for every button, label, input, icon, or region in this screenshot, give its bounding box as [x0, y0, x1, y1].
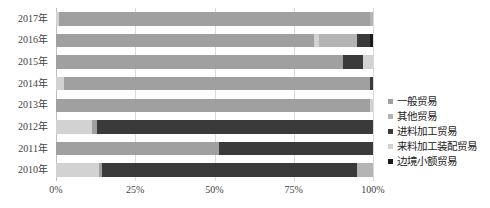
bar-segment[interactable] [370, 99, 373, 112]
x-axis-labels: 0%25%50%75%100% [56, 184, 373, 200]
y-axis-tick-label: 2014年 [18, 78, 48, 90]
legend-item[interactable]: 进料加工贸易 [388, 124, 488, 139]
legend-item[interactable]: 来料加工装配贸易 [388, 139, 488, 154]
bar-row [56, 12, 373, 25]
legend-item[interactable]: 边境小额贸易 [388, 154, 488, 169]
legend-swatch-icon [388, 114, 393, 119]
bar-segment[interactable] [59, 12, 370, 25]
bar-rows [56, 8, 373, 181]
plot-area [56, 8, 373, 181]
bar-segment[interactable] [56, 142, 219, 155]
legend-swatch-icon [388, 159, 393, 164]
legend-item-label: 来料加工装配贸易 [397, 139, 477, 154]
bar-segment[interactable] [56, 99, 370, 112]
bar-row [56, 120, 373, 133]
x-axis-tick-label: 100% [361, 184, 384, 195]
bar-segment[interactable] [363, 55, 373, 68]
stacked-bar-chart: 2017年2016年2015年2014年2013年2012年2011年2010年… [0, 0, 490, 208]
bar-row [56, 77, 373, 90]
legend-item-label: 边境小额贸易 [397, 154, 457, 169]
bar-row [56, 142, 373, 155]
legend-swatch-icon [388, 144, 393, 149]
bar-segment[interactable] [56, 34, 314, 47]
y-axis-tick-label: 2015年 [18, 56, 48, 68]
bar-segment[interactable] [370, 12, 373, 25]
bar-segment[interactable] [56, 55, 343, 68]
bar-segment[interactable] [343, 55, 364, 68]
bar-segment[interactable] [319, 34, 357, 47]
gridline-100 [373, 8, 374, 181]
y-axis-tick-label: 2017年 [18, 13, 48, 25]
legend-swatch-icon [388, 129, 393, 134]
bar-segment[interactable] [357, 34, 370, 47]
y-axis-tick-label: 2012年 [18, 121, 48, 133]
legend-item-label: 一般贸易 [397, 94, 437, 109]
x-axis-tick-label: 0% [49, 184, 62, 195]
x-axis-tick-label: 25% [126, 184, 144, 195]
bar-segment[interactable] [357, 163, 373, 176]
legend-item[interactable]: 一般贸易 [388, 94, 488, 109]
bar-segment[interactable] [370, 77, 373, 90]
y-axis-tick-label: 2013年 [18, 99, 48, 111]
y-axis-tick-label: 2011年 [18, 143, 48, 155]
x-axis-tick-label: 50% [205, 184, 223, 195]
bar-segment[interactable] [219, 142, 373, 155]
x-axis-tick-label: 75% [285, 184, 303, 195]
bar-segment[interactable] [370, 34, 373, 47]
legend-item-label: 进料加工贸易 [397, 124, 457, 139]
bar-segment[interactable] [97, 120, 373, 133]
legend-swatch-icon [388, 99, 393, 104]
bar-segment[interactable] [102, 163, 357, 176]
bar-segment[interactable] [56, 120, 92, 133]
y-axis-labels: 2017年2016年2015年2014年2013年2012年2011年2010年 [0, 8, 52, 181]
bar-segment[interactable] [64, 77, 370, 90]
bar-segment[interactable] [56, 163, 99, 176]
bar-row [56, 55, 373, 68]
legend-item[interactable]: 其他贸易 [388, 109, 488, 124]
y-axis-tick-label: 2010年 [18, 164, 48, 176]
bar-row [56, 34, 373, 47]
bar-segment[interactable] [56, 77, 64, 90]
legend-item-label: 其他贸易 [397, 109, 437, 124]
bar-row [56, 99, 373, 112]
y-axis-tick-label: 2016年 [18, 34, 48, 46]
chart-legend: 一般贸易其他贸易进料加工贸易来料加工装配贸易边境小额贸易 [388, 94, 488, 169]
bar-row [56, 163, 373, 176]
